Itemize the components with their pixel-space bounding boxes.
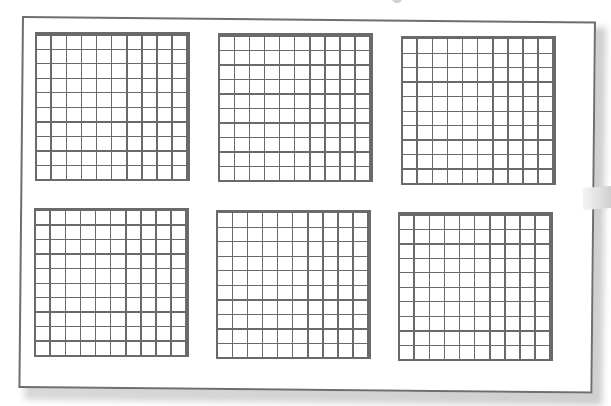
hundred-grid-bottom-middle	[216, 210, 371, 359]
hundred-grid-top-middle	[218, 33, 373, 182]
cropped-text-fragment	[392, 0, 402, 3]
hundred-grid-top-right	[401, 36, 556, 185]
page-edge-tab	[583, 186, 611, 210]
hundred-grid-top-left	[35, 32, 190, 181]
hundred-grid-bottom-right	[398, 212, 553, 361]
hundred-grid-bottom-left	[34, 208, 189, 357]
